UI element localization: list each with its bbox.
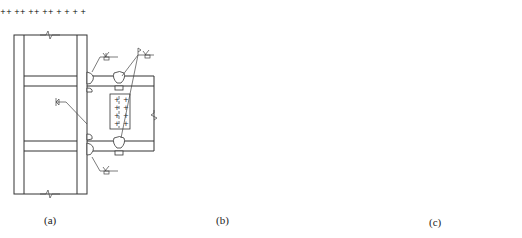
panel-a-caption: (a)	[44, 214, 56, 226]
connection-detail-drawing: ++ ++ ++ ++	[0, 0, 522, 238]
panel-b-caption: (b)	[216, 214, 229, 226]
svg-text:+: +	[123, 104, 129, 112]
panel-c-caption: (c)	[429, 216, 441, 228]
panel-a-drawing: ++ ++ ++ ++	[14, 31, 157, 198]
